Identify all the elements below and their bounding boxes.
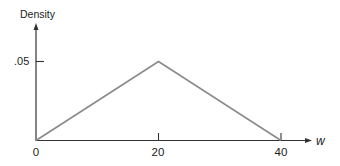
density-line	[36, 62, 281, 141]
x-axis-arrow-icon	[305, 138, 312, 143]
density-chart	[0, 0, 340, 166]
x-tick-label-0: 0	[33, 147, 39, 159]
y-axis-arrow-icon	[34, 23, 39, 30]
y-axis-label: Density	[20, 9, 55, 20]
x-tick-label-20: 20	[152, 147, 165, 159]
x-axis-label: w	[316, 135, 325, 147]
x-tick-label-40: 40	[275, 147, 288, 159]
y-tick-label-05: .05	[14, 56, 29, 67]
